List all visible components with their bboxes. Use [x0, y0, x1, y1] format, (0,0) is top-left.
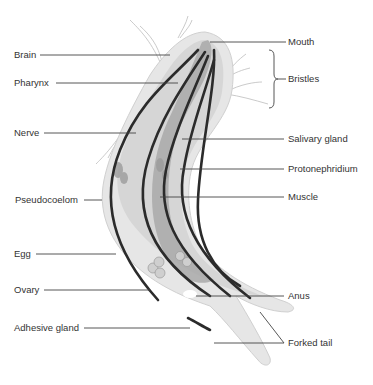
label-mouth: Mouth	[288, 36, 314, 47]
label-salivary-gland: Salivary gland	[288, 133, 348, 144]
label-protonephridium: Protonephridium	[288, 163, 358, 174]
label-anus: Anus	[288, 290, 310, 301]
label-adhesive-gland: Adhesive gland	[14, 322, 79, 333]
label-nerve: Nerve	[14, 127, 39, 138]
anatomy-diagram: Brain Pharynx Nerve Pseudocoelom Egg Ova…	[0, 0, 373, 385]
label-forked-tail: Forked tail	[288, 337, 332, 348]
label-brain: Brain	[14, 49, 36, 60]
label-bristles: Bristles	[288, 73, 319, 84]
label-egg: Egg	[14, 248, 31, 259]
label-pseudocoelom: Pseudocoelom	[15, 194, 78, 205]
label-muscle: Muscle	[288, 191, 318, 202]
anus-opening	[183, 290, 197, 298]
label-pharynx: Pharynx	[14, 77, 49, 88]
label-ovary: Ovary	[14, 284, 40, 295]
